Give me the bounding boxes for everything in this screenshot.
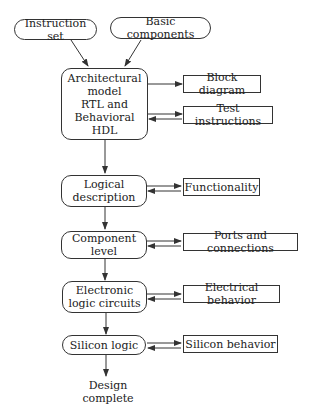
node-label: Block diagram [184, 71, 260, 97]
node-label: Logical description [73, 178, 136, 204]
node-component-level: Component level [61, 231, 147, 259]
node-test-instructions: Test instructions [183, 106, 273, 124]
node-label: Instruction set [15, 17, 96, 43]
node-silicon-behavior: Silicon behavior [183, 335, 278, 353]
node-label: Component level [72, 232, 136, 258]
node-label: Basic components [111, 15, 210, 41]
arrow-components-to-arch [125, 40, 141, 66]
node-label: Electronic logic circuits [68, 284, 140, 310]
node-basic-components: Basic components [110, 17, 211, 39]
node-electrical-behavior: Electrical behavior [183, 285, 280, 303]
node-label: Test instructions [184, 102, 272, 128]
node-label: Architectural model RTL and Behavioral H… [68, 72, 142, 137]
node-ports-and-connections: Ports and connections [183, 233, 298, 251]
node-label: Ports and connections [184, 229, 297, 255]
node-functionality: Functionality [183, 178, 260, 196]
node-logical-description: Logical description [61, 175, 147, 207]
node-label: Functionality [185, 181, 259, 194]
node-label: Electrical behavior [184, 281, 279, 307]
node-silicon-logic: Silicon logic [62, 335, 146, 355]
node-block-diagram: Block diagram [183, 75, 261, 93]
node-label: Silicon logic [70, 339, 138, 352]
design-complete-label: Design complete [62, 379, 154, 405]
node-architectural-model: Architectural model RTL and Behavioral H… [61, 68, 148, 140]
node-electronic-logic-circuits: Electronic logic circuits [62, 281, 147, 313]
arrow-instruction-to-arch [71, 40, 88, 66]
node-label: Silicon behavior [185, 338, 275, 351]
node-instruction-set: Instruction set [14, 19, 97, 40]
